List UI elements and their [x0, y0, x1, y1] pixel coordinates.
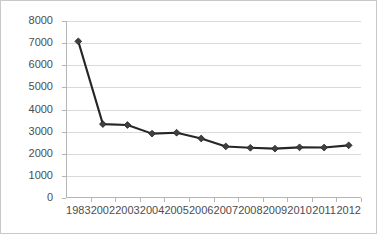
x-tick-label: 1983: [66, 204, 90, 216]
x-tick-label: 2009: [263, 204, 287, 216]
x-tick-label: 2006: [189, 204, 213, 216]
x-tick-mark: [164, 198, 165, 202]
x-tick-label: 2005: [164, 204, 188, 216]
x-tick-label: 2002: [91, 204, 115, 216]
x-tick-mark: [287, 198, 288, 202]
x-tick-label: 2012: [336, 204, 360, 216]
x-tick-mark: [312, 198, 313, 202]
x-tick-label: 2010: [287, 204, 311, 216]
x-tick-label: 2011: [312, 204, 336, 216]
x-tick-mark: [263, 198, 264, 202]
x-tick-label: 2003: [115, 204, 139, 216]
x-tick-mark: [189, 198, 190, 202]
x-tick-mark: [238, 198, 239, 202]
x-tick-label: 2007: [214, 204, 238, 216]
x-tick-mark: [336, 198, 337, 202]
x-tick-mark: [214, 198, 215, 202]
chart-container: 010002000300040005000600070008000 198320…: [0, 0, 377, 234]
x-tick-mark: [91, 198, 92, 202]
x-tick-mark: [361, 198, 362, 202]
x-tick-label: 2004: [140, 204, 164, 216]
x-tick-mark: [115, 198, 116, 202]
x-axis: 1983200220032004200520062007200820092010…: [1, 1, 377, 234]
x-tick-label: 2008: [238, 204, 262, 216]
x-tick-mark: [140, 198, 141, 202]
